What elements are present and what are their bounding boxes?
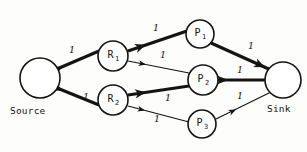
node-subscript-p1: 1 [202, 33, 206, 41]
node-label-r2: R [107, 93, 114, 104]
node-subscript-r1: 1 [115, 55, 119, 63]
edges-layer [57, 31, 271, 122]
flow-network-diagram: R1R2P1P2P3 111111111 SourceSink [0, 0, 307, 152]
edge-source-r1 [57, 51, 99, 69]
node-label-p1: P [194, 27, 200, 38]
node-subscript-r2: 2 [115, 99, 119, 107]
node-source[interactable] [20, 58, 60, 98]
edge-capacity-label-p1-sink: 1 [248, 40, 254, 51]
node-p2[interactable]: P2 [188, 65, 218, 95]
node-p1[interactable]: P1 [186, 20, 214, 48]
source-caption: Source [10, 105, 46, 116]
captions-layer: SourceSink [10, 103, 291, 116]
node-subscript-p2: 2 [205, 79, 209, 87]
edge-capacity-label-p2-sink: 1 [237, 64, 243, 75]
edge-capacity-label-source-r2: 1 [83, 91, 89, 102]
node-circle-sink [265, 62, 301, 98]
node-label-p2: P [197, 73, 203, 84]
node-sink[interactable] [265, 62, 301, 98]
node-p3[interactable]: P3 [188, 110, 216, 138]
arrowhead-p3-sink [228, 107, 237, 116]
node-subscript-p3: 3 [204, 123, 208, 131]
edge-r1-p1 [128, 31, 187, 51]
edge-labels-layer: 111111111 [69, 22, 254, 124]
arrowhead-r2-p3 [137, 106, 146, 114]
edge-capacity-label-r1-p1: 1 [153, 22, 159, 33]
edge-capacity-label-p3-sink: 1 [237, 90, 243, 101]
node-circle-source [20, 58, 60, 98]
edge-source-r2 [57, 88, 99, 105]
edge-capacity-label-source-r1: 1 [69, 44, 75, 55]
arrowhead-p1-sink [253, 59, 267, 72]
graph-canvas: R1R2P1P2P3 111111111 SourceSink [0, 0, 307, 152]
edge-r1-p2 [128, 61, 189, 73]
node-r2[interactable]: R2 [98, 85, 128, 115]
edge-capacity-label-r1-p2: 1 [160, 49, 166, 60]
node-r1[interactable]: R1 [98, 41, 128, 71]
sink-caption: Sink [267, 103, 291, 114]
node-label-r1: R [107, 49, 114, 60]
arrowheads-layer [51, 40, 267, 115]
edge-p3-sink [216, 92, 271, 119]
edge-capacity-label-r2-p3: 1 [154, 113, 160, 124]
edge-capacity-label-r2-p2: 1 [165, 92, 171, 103]
node-label-p3: P [196, 117, 202, 128]
